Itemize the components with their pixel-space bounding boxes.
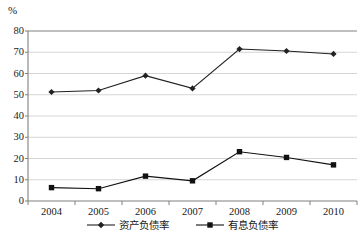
data-point-marker — [48, 89, 54, 95]
line-chart: % 01020304050607080 20042005200620072008… — [0, 0, 364, 241]
x-axis-tick-label: 2004 — [29, 206, 75, 217]
x-axis-ticks — [28, 201, 357, 205]
x-axis-tick-label: 2007 — [170, 206, 216, 217]
data-point-marker — [330, 51, 336, 57]
data-point-marker — [190, 178, 195, 183]
legend-label: 资产负债率 — [119, 219, 169, 231]
series-layer — [48, 46, 336, 191]
x-axis-tick-label: 2005 — [76, 206, 122, 217]
x-axis-tick-label: 2008 — [217, 206, 263, 217]
legend-item-2[interactable]: 有息负债率 — [195, 219, 278, 231]
data-point-marker — [284, 155, 289, 160]
y-axis-tick-label: 50 — [2, 90, 24, 100]
legend-label: 有息负债率 — [228, 219, 278, 231]
gridlines — [28, 31, 357, 180]
x-axis-tick-label: 2010 — [311, 206, 357, 217]
data-point-marker — [96, 186, 101, 191]
y-axis-tick-label: 10 — [2, 175, 24, 185]
data-point-marker — [331, 162, 336, 167]
data-point-marker — [95, 87, 101, 93]
y-axis-tick-label: 70 — [2, 47, 24, 57]
data-point-marker — [237, 149, 242, 154]
x-axis-tick-label: 2006 — [123, 206, 169, 217]
legend-item-1[interactable]: 资产负债率 — [86, 219, 169, 231]
diamond-marker-icon — [86, 219, 116, 231]
y-axis-tick-label: 20 — [2, 154, 24, 164]
y-axis-tick-label: 40 — [2, 111, 24, 121]
y-axis-tick-label: 0 — [2, 196, 24, 206]
y-axis-tick-label: 60 — [2, 69, 24, 79]
data-point-marker — [49, 185, 54, 190]
chart-plot-area — [0, 0, 364, 241]
x-axis-tick-label: 2009 — [264, 206, 310, 217]
chart-legend: 资产负债率有息负债率 — [0, 219, 364, 231]
y-axis-tick-label: 30 — [2, 132, 24, 142]
square-marker-icon — [195, 219, 225, 231]
data-point-marker — [143, 173, 148, 178]
data-point-marker — [283, 48, 289, 54]
y-axis-tick-label: 80 — [2, 26, 24, 36]
